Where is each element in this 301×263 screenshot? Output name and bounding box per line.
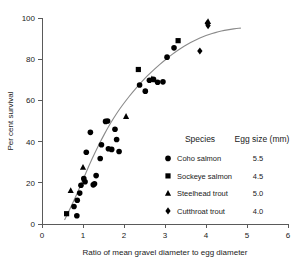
x-tick-label: 5 xyxy=(245,231,250,240)
series-cutthroat-trout xyxy=(197,20,210,55)
x-tick-label: 6 xyxy=(286,231,291,240)
data-point-triangle xyxy=(80,164,86,170)
data-point-circle xyxy=(112,126,118,132)
x-tick-label: 2 xyxy=(122,231,127,240)
legend-marker-triangle xyxy=(165,190,171,196)
legend-row: Coho salmon5.5 xyxy=(165,154,263,163)
series-coho-salmon xyxy=(71,45,177,219)
y-tick-label: 60 xyxy=(26,96,35,105)
data-point-triangle xyxy=(123,113,129,119)
data-point-square xyxy=(136,67,141,72)
data-point-circle xyxy=(88,130,94,136)
data-point-circle xyxy=(164,54,170,60)
data-point-circle xyxy=(155,79,161,85)
scatter-plot-svg: 0123456 020406080100 Ratio of mean grave… xyxy=(0,0,301,263)
x-axis-title: Ratio of mean gravel diameter to egg dia… xyxy=(83,248,248,257)
data-point-circle xyxy=(82,179,88,185)
data-point-circle xyxy=(109,147,115,153)
data-point-circle xyxy=(137,82,143,88)
legend-row: Cutthroat trout4.0 xyxy=(165,207,263,216)
data-point-circle xyxy=(143,88,149,94)
x-tick-label: 1 xyxy=(81,231,86,240)
y-tick-label: 0 xyxy=(31,220,36,229)
data-point-circle xyxy=(97,156,103,162)
data-point-circle xyxy=(92,181,98,187)
data-point-circle xyxy=(77,190,83,196)
data-point-circle xyxy=(160,79,166,85)
legend-marker-square xyxy=(165,173,170,178)
legend-marker-circle xyxy=(165,156,171,162)
data-point-circle xyxy=(93,173,99,179)
data-point-square xyxy=(64,211,69,216)
legend-header-species: Species xyxy=(185,134,215,144)
data-point-circle xyxy=(116,149,122,155)
legend-egg-size-value: 4.0 xyxy=(253,207,263,216)
data-point-square xyxy=(176,38,181,43)
data-point-circle xyxy=(83,150,89,156)
legend-row: Sockeye salmon4.5 xyxy=(165,172,263,181)
legend-header-egg-size: Egg size (mm) xyxy=(235,134,290,144)
legend: Species Egg size (mm) Coho salmon5.5Sock… xyxy=(165,134,290,216)
series-steelhead-trout xyxy=(68,18,212,193)
y-tick-label: 20 xyxy=(26,179,35,188)
series-sockeye-salmon xyxy=(64,38,181,216)
x-axis-ticks: 0123456 xyxy=(40,224,291,240)
y-tick-label: 100 xyxy=(22,14,36,23)
legend-species-label: Steelhead trout xyxy=(177,189,229,198)
data-point-triangle xyxy=(68,187,74,193)
legend-egg-size-value: 5.0 xyxy=(253,189,263,198)
x-tick-label: 0 xyxy=(40,231,45,240)
data-point-circle xyxy=(74,198,80,204)
legend-egg-size-value: 4.5 xyxy=(253,172,263,181)
chart-figure: 0123456 020406080100 Ratio of mean grave… xyxy=(0,0,301,263)
legend-marker-diamond xyxy=(165,207,170,214)
legend-species-label: Sockeye salmon xyxy=(177,172,232,181)
data-point-circle xyxy=(105,118,111,124)
y-tick-label: 80 xyxy=(26,55,35,64)
legend-species-label: Cutthroat trout xyxy=(177,207,226,216)
y-axis-ticks: 020406080100 xyxy=(22,14,42,229)
data-point-circle xyxy=(71,204,77,210)
data-point-circle xyxy=(99,142,105,148)
data-point-diamond xyxy=(197,47,202,54)
data-point-circle xyxy=(171,45,177,51)
x-tick-label: 4 xyxy=(204,231,209,240)
legend-row: Steelhead trout5.0 xyxy=(165,189,263,198)
y-tick-label: 40 xyxy=(26,138,35,147)
y-axis-title: Per cent survival xyxy=(6,91,15,150)
data-point-circle xyxy=(114,137,120,143)
data-point-circle xyxy=(74,213,80,219)
x-tick-label: 3 xyxy=(163,231,168,240)
legend-egg-size-value: 5.5 xyxy=(253,154,263,163)
legend-species-label: Coho salmon xyxy=(177,154,221,163)
legend-rows: Coho salmon5.5Sockeye salmon4.5Steelhead… xyxy=(165,154,263,216)
